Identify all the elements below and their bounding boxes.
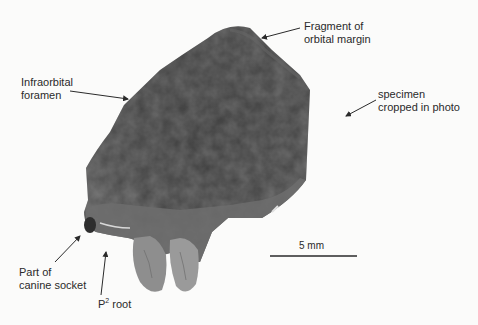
scale-bar-label: 5 mm bbox=[299, 240, 324, 251]
arrow-infraorbital bbox=[70, 91, 128, 99]
arrow-p2 bbox=[101, 252, 106, 295]
label-specimen-cropped: specimen cropped in photo bbox=[378, 88, 460, 114]
arrow-canine bbox=[55, 236, 80, 262]
figure: Fragment of orbital margin Infraorbital … bbox=[0, 0, 478, 325]
label-orbital-margin: Fragment of orbital margin bbox=[304, 20, 371, 46]
arrow-cropped bbox=[346, 100, 376, 116]
label-infraorbital-foramen: Infraorbital foramen bbox=[21, 76, 73, 102]
label-p2-root: P2 root bbox=[98, 298, 131, 311]
label-canine-socket: Part of canine socket bbox=[19, 266, 86, 292]
arrow-orbital bbox=[262, 28, 300, 38]
